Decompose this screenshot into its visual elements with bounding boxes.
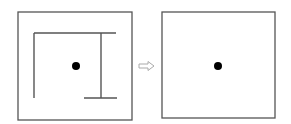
- right-panel: [162, 12, 275, 118]
- right-arrow-icon: [139, 62, 154, 71]
- diagram-canvas: [0, 0, 291, 124]
- left-panel: [18, 12, 132, 120]
- left-dot: [72, 62, 80, 70]
- right-dot: [214, 62, 222, 70]
